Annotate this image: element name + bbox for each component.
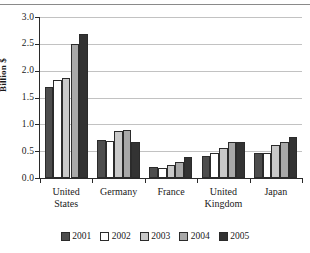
- bar: [123, 130, 132, 178]
- y-axis-tick-label: 3.0: [8, 13, 34, 23]
- y-axis-tick: [35, 124, 40, 125]
- legend-swatch-icon: [179, 232, 188, 241]
- x-axis-line: [39, 178, 302, 179]
- top-divider-rule: [0, 4, 310, 5]
- bar: [202, 156, 211, 178]
- x-axis-category-label: United States: [40, 186, 92, 209]
- bar: [289, 137, 298, 178]
- x-axis-category-label: France: [145, 186, 197, 198]
- bar: [175, 162, 184, 178]
- bar: [254, 153, 263, 178]
- bar-group: [92, 17, 144, 178]
- bar: [53, 80, 62, 178]
- bar-group: [145, 17, 197, 178]
- bar: [149, 167, 158, 178]
- plot-area: [40, 17, 302, 178]
- x-axis-tick: [250, 178, 251, 183]
- bar: [228, 142, 237, 178]
- bar: [45, 87, 54, 178]
- y-axis-tick: [35, 98, 40, 99]
- bar: [106, 141, 115, 178]
- bar: [271, 145, 280, 178]
- bar: [210, 153, 219, 178]
- y-axis-tick-label: 2.0: [8, 66, 34, 76]
- y-axis-tick-label: 0.5: [8, 147, 34, 157]
- x-axis-tick: [197, 178, 198, 183]
- y-axis-tick: [35, 151, 40, 152]
- y-axis-tick: [35, 71, 40, 72]
- legend-item: 2003: [140, 232, 171, 242]
- bar: [184, 157, 193, 178]
- y-axis-tick: [35, 17, 40, 18]
- x-axis-category-label: Germany: [92, 186, 144, 198]
- bar: [167, 165, 176, 178]
- bar: [62, 78, 71, 178]
- bar: [236, 142, 245, 178]
- y-axis-tick: [35, 44, 40, 45]
- bar: [79, 34, 88, 178]
- legend-label: 2004: [191, 232, 210, 242]
- bar-group: [250, 17, 302, 178]
- legend-item: 2005: [219, 232, 250, 242]
- legend-swatch-icon: [100, 232, 109, 241]
- bar: [71, 44, 80, 178]
- legend-swatch-icon: [140, 232, 149, 241]
- x-axis-tick: [92, 178, 93, 183]
- legend-swatch-icon: [61, 232, 70, 241]
- bar: [263, 153, 272, 178]
- bar: [280, 142, 289, 178]
- legend-item: 2004: [179, 232, 210, 242]
- x-axis-category-label: United Kingdom: [197, 186, 249, 209]
- legend-label: 2001: [72, 232, 91, 242]
- legend-label: 2002: [112, 232, 131, 242]
- y-axis-tick-label: 1.0: [8, 120, 34, 130]
- x-axis-category-label: Japan: [250, 186, 302, 198]
- legend-swatch-icon: [219, 232, 228, 241]
- y-axis-tick-label: 1.5: [8, 93, 34, 103]
- x-axis-tick: [40, 178, 41, 183]
- legend-label: 2003: [151, 232, 170, 242]
- bar: [219, 148, 228, 178]
- bar-group: [197, 17, 249, 178]
- x-axis-tick: [145, 178, 146, 183]
- legend-item: 2001: [61, 232, 92, 242]
- bar: [158, 168, 167, 178]
- y-axis-tick-label: 2.5: [8, 39, 34, 49]
- chart-legend: 20012002200320042005: [0, 232, 310, 242]
- bar: [97, 140, 106, 178]
- y-axis-tick-label: 0.0: [8, 174, 34, 184]
- bar: [131, 142, 140, 178]
- legend-label: 2005: [230, 232, 249, 242]
- bar: [114, 131, 123, 178]
- bar-group: [40, 17, 92, 178]
- legend-item: 2002: [100, 232, 131, 242]
- bar-chart: Billion $ 0.00.51.01.52.02.53.0 United S…: [0, 0, 310, 253]
- x-axis-tick: [302, 178, 303, 183]
- y-axis-title: Billion $: [0, 58, 8, 92]
